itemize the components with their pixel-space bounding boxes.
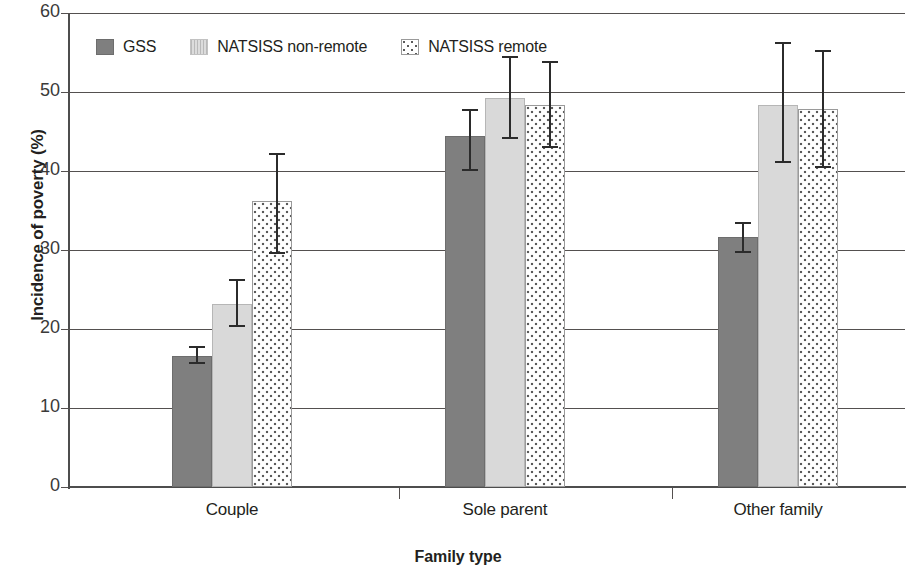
x-axis-title: Family type	[0, 548, 916, 566]
error-bar-cap-lower	[229, 325, 245, 327]
poverty-incidence-bar-chart: Incidence of poverty (%) 6050403020100 C…	[0, 0, 916, 581]
y-tick-label: 50	[14, 81, 60, 99]
legend-swatch-gss-icon	[96, 39, 114, 55]
bar	[212, 304, 252, 487]
y-tick: 50	[0, 81, 60, 99]
y-tick-label: 30	[14, 239, 60, 257]
error-bar-stem	[549, 61, 551, 148]
x-tick-label: Other family	[688, 500, 868, 520]
chart-legend: GSS NATSISS non-remote NATSISS remote	[96, 36, 581, 58]
y-tick-label: 60	[14, 2, 60, 20]
error-bar-cap-lower	[462, 169, 478, 171]
error-bar-cap-upper	[462, 109, 478, 111]
y-tick-label: 0	[14, 476, 60, 494]
bar	[525, 105, 565, 487]
y-axis-title: Incidence of poverty (%)	[28, 95, 48, 355]
error-bar-cap-lower	[775, 161, 791, 163]
y-tick-label: 20	[14, 318, 60, 336]
error-bar-cap-lower	[189, 362, 205, 364]
bar	[485, 98, 525, 487]
bar	[172, 356, 212, 487]
gridline	[68, 13, 905, 14]
error-bar-stem	[236, 279, 238, 327]
error-bar-stem	[822, 50, 824, 168]
error-bar-cap-lower	[815, 166, 831, 168]
error-bar-cap-upper	[815, 50, 831, 52]
legend-item-natsiss-non-remote: NATSISS non-remote	[190, 38, 367, 56]
error-bar-cap-upper	[735, 222, 751, 224]
error-bar-stem	[742, 222, 744, 253]
x-tick-label: Couple	[142, 500, 322, 520]
y-tick: 30	[0, 239, 60, 257]
bar	[718, 237, 758, 487]
x-tick-mark	[399, 488, 400, 499]
y-tick: 10	[0, 397, 60, 415]
legend-label-natsiss-non-remote: NATSISS non-remote	[217, 38, 367, 56]
y-tick: 20	[0, 318, 60, 336]
y-tick: 40	[0, 160, 60, 178]
error-bar-cap-upper	[542, 61, 558, 63]
legend-label-natsiss-remote: NATSISS remote	[428, 38, 547, 56]
error-bar-stem	[509, 56, 511, 139]
error-bar-stem	[469, 109, 471, 171]
y-tick: 0	[0, 476, 60, 494]
y-tick: 60	[0, 2, 60, 20]
gridline	[68, 92, 905, 93]
error-bar-cap-lower	[542, 146, 558, 148]
error-bar-cap-lower	[269, 252, 285, 254]
error-bar-cap-upper	[269, 153, 285, 155]
x-tick-mark	[672, 488, 673, 499]
legend-item-natsiss-remote: NATSISS remote	[401, 38, 547, 56]
x-tick-label: Sole parent	[415, 500, 595, 520]
error-bar-cap-upper	[775, 42, 791, 44]
error-bar-stem	[276, 153, 278, 254]
error-bar-cap-upper	[189, 346, 205, 348]
error-bar-cap-lower	[735, 251, 751, 253]
error-bar-stem	[782, 42, 784, 163]
legend-swatch-natsiss-non-remote-icon	[190, 39, 208, 55]
legend-item-gss: GSS	[96, 38, 156, 56]
plot-area	[68, 13, 905, 487]
legend-swatch-natsiss-remote-icon	[401, 39, 419, 55]
legend-label-gss: GSS	[123, 38, 156, 56]
bar	[252, 201, 292, 487]
bar	[445, 136, 485, 487]
y-tick-label: 10	[14, 397, 60, 415]
error-bar-cap-upper	[229, 279, 245, 281]
y-tick-label: 40	[14, 160, 60, 178]
error-bar-cap-lower	[502, 137, 518, 139]
